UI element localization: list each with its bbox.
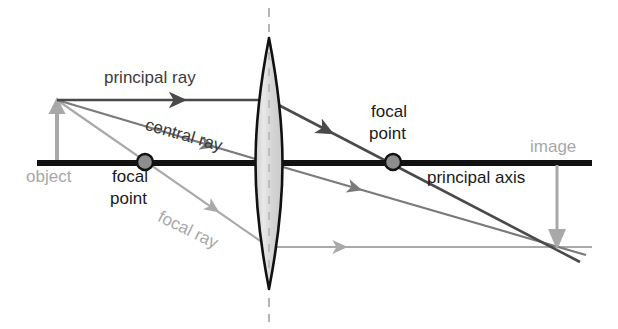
image-label: image bbox=[530, 138, 576, 155]
object-label: object bbox=[26, 168, 71, 185]
principal-ray-outgoing bbox=[269, 100, 580, 262]
diagram-canvas bbox=[0, 0, 618, 329]
optics-ray-diagram: principal ray central ray focal ray obje… bbox=[0, 0, 618, 329]
image-arrow bbox=[548, 165, 566, 250]
principal-ray-label: principal ray bbox=[104, 69, 196, 86]
principal-axis-label: principal axis bbox=[427, 169, 525, 186]
object-arrow bbox=[49, 97, 66, 161]
focal-point-right-label-line2: point bbox=[369, 125, 406, 142]
focal-point-right-label-line1: focal bbox=[371, 103, 407, 120]
focal-point-left-label-line1: focal bbox=[112, 168, 148, 185]
focal-point-right-dot bbox=[385, 154, 401, 170]
focal-point-left-label-line2: point bbox=[110, 190, 147, 207]
